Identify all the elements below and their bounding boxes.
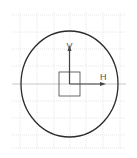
v-axis-label: V	[67, 41, 73, 51]
h-axis-label: H	[100, 72, 107, 82]
sketch-canvas[interactable]: H V	[0, 0, 137, 158]
